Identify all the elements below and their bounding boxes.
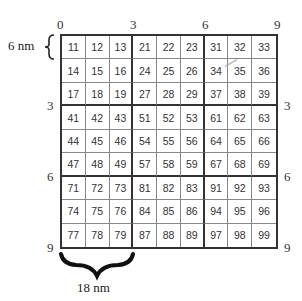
- grid-cell: 87: [133, 224, 157, 247]
- grid-cell: 74: [62, 200, 86, 223]
- grid-cell: 99: [252, 224, 276, 247]
- grid-cell: 84: [133, 200, 157, 223]
- grid-cell: 53: [181, 106, 205, 129]
- grid-cell: 43: [110, 106, 134, 129]
- grid-cell: 58: [157, 153, 181, 176]
- grid-cell: 32: [228, 36, 252, 59]
- grid-cell: 31: [205, 36, 229, 59]
- grid-cell: 49: [110, 153, 134, 176]
- grid-cell: 38: [228, 83, 252, 106]
- grid-cell: 28: [157, 83, 181, 106]
- grid-cell: 88: [157, 224, 181, 247]
- grid-cell: 45: [86, 130, 110, 153]
- grid-cell: 72: [86, 177, 110, 200]
- grid-cell: 51: [133, 106, 157, 129]
- grid-cell: 63: [252, 106, 276, 129]
- right-axis-label-6: 6: [284, 170, 291, 183]
- grid-cell: 36: [252, 59, 276, 82]
- grid-cell: 73: [110, 177, 134, 200]
- row-height-label: 6 nm: [8, 38, 34, 54]
- grid-cell: 95: [228, 200, 252, 223]
- grid-cell: 41: [62, 106, 86, 129]
- grid-cell: 37: [205, 83, 229, 106]
- grid-cell: 23: [181, 36, 205, 59]
- grid-cell: 11: [62, 36, 86, 59]
- grid-cell: 86: [181, 200, 205, 223]
- grid-cell: 64: [205, 130, 229, 153]
- grid-cell: 33: [252, 36, 276, 59]
- grid-cell: 93: [252, 177, 276, 200]
- cell-grid: 1112132122233132331415162425263435361718…: [60, 34, 278, 249]
- grid-cell: 98: [228, 224, 252, 247]
- block-width-label: 18 nm: [77, 280, 110, 296]
- grid-cell: 65: [228, 130, 252, 153]
- grid-cell: 85: [157, 200, 181, 223]
- right-axis-label-3: 3: [284, 99, 291, 112]
- grid-cell: 48: [86, 153, 110, 176]
- grid-cell: 83: [181, 177, 205, 200]
- top-axis-label-3: 3: [130, 18, 137, 31]
- grid-cell: 39: [252, 83, 276, 106]
- grid-cell: 94: [205, 200, 229, 223]
- grid-cell: 71: [62, 177, 86, 200]
- grid-cell: 26: [181, 59, 205, 82]
- grid-cell: 55: [157, 130, 181, 153]
- grid-cell: 34: [205, 59, 229, 82]
- grid-cell: 57: [133, 153, 157, 176]
- grid-cell: 66: [252, 130, 276, 153]
- grid-cell: 24: [133, 59, 157, 82]
- grid-cell: 14: [62, 59, 86, 82]
- grid-cell: 52: [157, 106, 181, 129]
- left-axis-label-9: 9: [47, 241, 54, 254]
- grid-cell: 19: [110, 83, 134, 106]
- grid-cell: 62: [228, 106, 252, 129]
- grid-cell: 75: [86, 200, 110, 223]
- grid-cell: 22: [157, 36, 181, 59]
- grid-cell: 21: [133, 36, 157, 59]
- grid-cell: 76: [110, 200, 134, 223]
- grid-cell: 91: [205, 177, 229, 200]
- grid-cell: 59: [181, 153, 205, 176]
- grid-cell: 12: [86, 36, 110, 59]
- grid-cell: 42: [86, 106, 110, 129]
- grid-cell: 96: [252, 200, 276, 223]
- top-axis-label-0: 0: [57, 18, 64, 31]
- grid-cell: 61: [205, 106, 229, 129]
- left-brace-icon: [44, 34, 56, 60]
- grid-cell: 15: [86, 59, 110, 82]
- left-axis-label-3: 3: [47, 99, 54, 112]
- grid-cell: 89: [181, 224, 205, 247]
- grid-cell: 44: [62, 130, 86, 153]
- grid-cell: 92: [228, 177, 252, 200]
- grid-cell: 68: [228, 153, 252, 176]
- grid-cell: 79: [110, 224, 134, 247]
- bottom-brace-icon: [60, 252, 134, 278]
- grid-cell: 46: [110, 130, 134, 153]
- left-axis-label-6: 6: [47, 170, 54, 183]
- grid-cell: 27: [133, 83, 157, 106]
- grid-cell: 47: [62, 153, 86, 176]
- grid-cell: 54: [133, 130, 157, 153]
- grid-cell: 97: [205, 224, 229, 247]
- grid-cell: 17: [62, 83, 86, 106]
- grid-cell: 18: [86, 83, 110, 106]
- grid-cell: 56: [181, 130, 205, 153]
- grid-cell: 16: [110, 59, 134, 82]
- grid-cell: 78: [86, 224, 110, 247]
- top-axis-label-6: 6: [202, 18, 209, 31]
- grid-cell: 69: [252, 153, 276, 176]
- grid-cell: 82: [157, 177, 181, 200]
- grid-cell: 29: [181, 83, 205, 106]
- grid-cell: 13: [110, 36, 134, 59]
- grid-cell: 81: [133, 177, 157, 200]
- grid-cell: 77: [62, 224, 86, 247]
- right-axis-label-9: 9: [284, 241, 291, 254]
- top-axis-label-9: 9: [274, 18, 281, 31]
- grid-cell: 25: [157, 59, 181, 82]
- grid-cell: 67: [205, 153, 229, 176]
